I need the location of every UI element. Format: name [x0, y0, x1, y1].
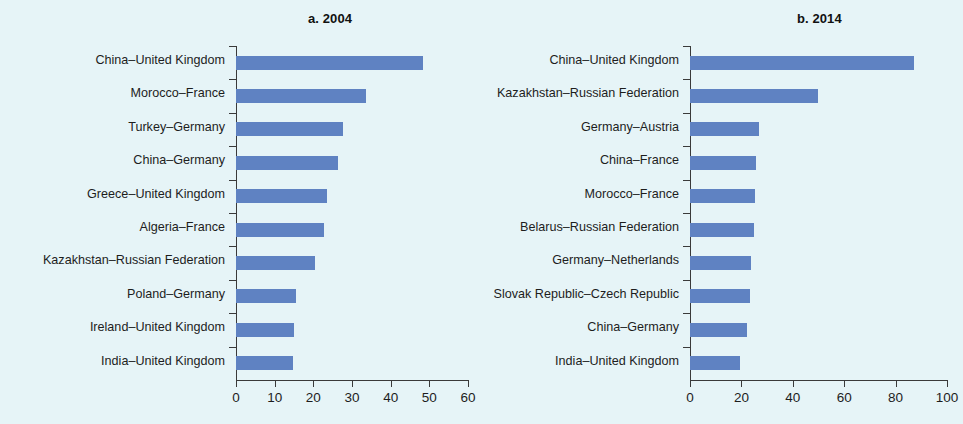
panel-b-title: b. 2014 [797, 11, 842, 26]
bar [236, 323, 294, 337]
category-label: India–United Kingdom [101, 354, 225, 368]
bar [236, 256, 315, 270]
bar [236, 189, 327, 203]
panel-a-plot-area: China–United Kingdom Morocco–France Turk… [236, 46, 468, 380]
y-tick [229, 146, 236, 147]
x-tick [690, 380, 691, 387]
bar-row: Germany–Austria [690, 113, 947, 146]
bar [690, 323, 747, 337]
bar-row: Germany–Netherlands [690, 246, 947, 279]
x-tick-label: 20 [306, 390, 321, 405]
bar-row: Greece–United Kingdom [236, 180, 468, 213]
y-tick [229, 280, 236, 281]
y-tick [229, 313, 236, 314]
bar-row: Algeria–France [236, 213, 468, 246]
x-tick [236, 380, 237, 387]
y-tick [229, 46, 236, 47]
bar [236, 356, 293, 370]
bar [690, 356, 740, 370]
category-label: China–United Kingdom [549, 53, 679, 67]
x-tick-label: 60 [460, 390, 475, 405]
category-label: Morocco–France [585, 187, 680, 201]
category-label: Algeria–France [140, 220, 225, 234]
category-label: China–Germany [587, 320, 679, 334]
y-tick [683, 213, 690, 214]
bar [236, 122, 343, 136]
category-label: Kazakhstan–Russian Federation [497, 86, 679, 100]
x-tick-label: 100 [936, 390, 959, 405]
y-tick [229, 113, 236, 114]
y-tick [683, 46, 690, 47]
bar [690, 156, 756, 170]
bar-row: Morocco–France [690, 180, 947, 213]
category-label: Poland–Germany [127, 287, 225, 301]
y-tick [683, 180, 690, 181]
x-tick-label: 50 [422, 390, 437, 405]
bar-row: China–Germany [236, 146, 468, 179]
x-tick-label: 20 [734, 390, 749, 405]
y-tick [683, 280, 690, 281]
bar-row: Kazakhstan–Russian Federation [236, 246, 468, 279]
category-label: Ireland–United Kingdom [90, 320, 225, 334]
x-tick [844, 380, 845, 387]
bar-row: China–France [690, 146, 947, 179]
x-tick-label: 0 [232, 390, 240, 405]
y-tick [683, 313, 690, 314]
y-tick [683, 347, 690, 348]
x-tick [947, 380, 948, 387]
category-label: Slovak Republic–Czech Republic [493, 287, 679, 301]
x-tick-label: 80 [888, 390, 903, 405]
y-tick [229, 180, 236, 181]
y-tick [683, 79, 690, 80]
x-tick-label: 10 [267, 390, 282, 405]
bar-row: India–United Kingdom [236, 347, 468, 380]
x-tick [313, 380, 314, 387]
x-tick-label: 60 [837, 390, 852, 405]
y-tick [683, 113, 690, 114]
bar-row: China–United Kingdom [236, 46, 468, 79]
bar [236, 223, 324, 237]
category-label: China–Germany [133, 153, 225, 167]
chart-panel-a: a. 2004 China–United Kingdom Morocco–Fra… [0, 0, 482, 424]
bar [690, 122, 759, 136]
category-label: Germany–Austria [581, 120, 679, 134]
bar-row: Poland–Germany [236, 280, 468, 313]
bar-row: Belarus–Russian Federation [690, 213, 947, 246]
y-tick [229, 79, 236, 80]
bar [690, 289, 750, 303]
bar-row: Ireland–United Kingdom [236, 313, 468, 346]
bar-row: Turkey–Germany [236, 113, 468, 146]
bar [690, 56, 914, 70]
x-tick [275, 380, 276, 387]
category-label: Greece–United Kingdom [87, 187, 225, 201]
x-tick-label: 40 [383, 390, 398, 405]
bar-row: India–United Kingdom [690, 347, 947, 380]
bar [690, 89, 818, 103]
bar [690, 189, 755, 203]
y-tick [229, 347, 236, 348]
bar-row: Morocco–France [236, 79, 468, 112]
figure-container: a. 2004 China–United Kingdom Morocco–Fra… [0, 0, 963, 424]
y-tick [683, 246, 690, 247]
x-tick [896, 380, 897, 387]
y-tick [229, 213, 236, 214]
bar [690, 223, 754, 237]
x-tick [352, 380, 353, 387]
x-tick [468, 380, 469, 387]
x-tick-label: 30 [344, 390, 359, 405]
x-tick-label: 0 [686, 390, 694, 405]
panel-b-x-axis-line [690, 380, 947, 381]
bar-row: China–Germany [690, 313, 947, 346]
panel-b-plot-area: China–United Kingdom Kazakhstan–Russian … [690, 46, 947, 380]
category-label: Kazakhstan–Russian Federation [43, 253, 225, 267]
bar-row: China–United Kingdom [690, 46, 947, 79]
category-label: Morocco–France [131, 86, 226, 100]
y-tick [683, 146, 690, 147]
x-tick [741, 380, 742, 387]
bar [236, 156, 338, 170]
category-label: China–France [600, 153, 679, 167]
x-tick [793, 380, 794, 387]
bar-row: Slovak Republic–Czech Republic [690, 280, 947, 313]
x-tick-label: 40 [785, 390, 800, 405]
bar-row: Kazakhstan–Russian Federation [690, 79, 947, 112]
